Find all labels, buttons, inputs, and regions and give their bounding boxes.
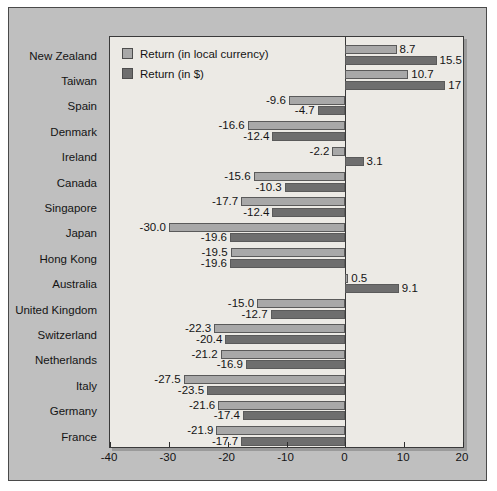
x-tick-label: -30 (148, 451, 188, 463)
bar-value-label: -12.7 (110, 309, 268, 319)
category-label: Australia (52, 278, 97, 290)
bar-value-label: -16.9 (110, 359, 243, 369)
legend-label-usd: Return (in $) (140, 68, 204, 80)
x-tick-label: -10 (266, 451, 306, 463)
bar (230, 233, 345, 242)
legend-swatch-local (122, 48, 133, 59)
x-tick-label: 20 (442, 451, 482, 463)
x-tick-label: 0 (324, 451, 364, 463)
bar (216, 426, 345, 435)
bar-value-label: -22.3 (110, 323, 211, 333)
category-label: Canada (57, 177, 97, 189)
bar-value-label: -19.6 (110, 232, 227, 242)
bar-value-label: -16.6 (110, 120, 245, 130)
x-tick (287, 442, 288, 447)
bar-value-label: -19.5 (110, 247, 228, 257)
bar-value-label: -9.6 (110, 95, 286, 105)
category-label: Denmark (50, 126, 97, 138)
legend-item-usd: Return (in $) (122, 65, 268, 82)
legend-label-local: Return (in local currency) (140, 48, 268, 60)
x-tick-label: 10 (383, 451, 423, 463)
category-axis-labels: New ZealandTaiwanSpainDenmarkIrelandCana… (9, 36, 104, 448)
bar-value-label: -30.0 (110, 222, 166, 232)
category-label: Taiwan (61, 75, 97, 87)
bar-value-label: -2.2 (110, 146, 329, 156)
bar (345, 284, 399, 293)
chart-figure: New ZealandTaiwanSpainDenmarkIrelandCana… (8, 7, 487, 481)
bar-value-label: 10.7 (411, 69, 433, 79)
bar (257, 299, 345, 308)
bar (254, 172, 346, 181)
legend-swatch-usd (122, 68, 133, 79)
bar-value-label: -20.4 (110, 334, 222, 344)
bar (207, 386, 345, 395)
category-label: Ireland (62, 151, 97, 163)
bar (272, 208, 345, 217)
bar (332, 147, 345, 156)
x-tick (110, 442, 111, 447)
bar (345, 274, 348, 283)
bar-value-label: 17 (448, 80, 461, 90)
bar-value-label: -21.2 (110, 349, 218, 359)
bar-value-label: 9.1 (402, 283, 418, 293)
x-tick (404, 442, 405, 447)
category-label: Netherlands (35, 354, 97, 366)
x-tick-label: -40 (89, 451, 129, 463)
bar (345, 45, 396, 54)
bar (318, 106, 346, 115)
bar (184, 375, 346, 384)
bar (272, 132, 345, 141)
bar-value-label: 3.1 (367, 156, 383, 166)
category-label: Singapore (45, 202, 97, 214)
bar (345, 56, 436, 65)
zero-axis-line (345, 37, 346, 447)
bar (345, 157, 363, 166)
bar (214, 324, 345, 333)
bar (225, 335, 345, 344)
chart-legend: Return (in local currency) Return (in $) (122, 45, 268, 85)
bar-value-label: -27.5 (110, 374, 181, 384)
bar (248, 121, 346, 130)
bar (231, 248, 346, 257)
bar-value-label: -21.9 (110, 425, 213, 435)
bar-value-label: -17.7 (110, 436, 238, 446)
x-tick (169, 442, 170, 447)
bar (345, 70, 408, 79)
x-tick (463, 442, 464, 447)
bar-value-label: -12.4 (110, 207, 269, 217)
bar (243, 411, 345, 420)
bar-value-label: -15.0 (110, 298, 254, 308)
category-label: Switzerland (38, 329, 97, 341)
category-label: Germany (50, 405, 97, 417)
bar-value-label: -12.4 (110, 131, 269, 141)
bar (241, 437, 345, 446)
category-label: Italy (76, 380, 97, 392)
bar (285, 183, 346, 192)
x-tick-label: -20 (207, 451, 247, 463)
category-label: Japan (66, 227, 97, 239)
bar (271, 310, 346, 319)
bar-value-label: -23.5 (110, 385, 204, 395)
bar-value-label: -15.6 (110, 171, 251, 181)
bar-value-label: 15.5 (440, 55, 462, 65)
category-label: New Zealand (29, 50, 97, 62)
bar-value-label: -17.4 (110, 410, 240, 420)
bar-value-label: -10.3 (110, 182, 282, 192)
bar-value-label: 0.5 (351, 273, 367, 283)
x-tick (228, 442, 229, 447)
legend-item-local: Return (in local currency) (122, 45, 268, 62)
category-label: United Kingdom (15, 304, 97, 316)
category-label: France (61, 431, 97, 443)
bar (246, 360, 345, 369)
bar-value-label: -4.7 (110, 105, 315, 115)
category-label: Hong Kong (39, 253, 97, 265)
bar (230, 259, 345, 268)
bar-value-label: -19.6 (110, 258, 227, 268)
bar-value-label: -21.6 (110, 400, 215, 410)
plot-area: 8.715.510.717-9.6-4.7-16.6-12.4-2.23.1-1… (109, 36, 464, 448)
bar-value-label: -17.7 (110, 196, 238, 206)
bar (345, 81, 445, 90)
category-label: Spain (68, 100, 97, 112)
bar-value-label: 8.7 (400, 44, 416, 54)
x-tick (345, 442, 346, 447)
